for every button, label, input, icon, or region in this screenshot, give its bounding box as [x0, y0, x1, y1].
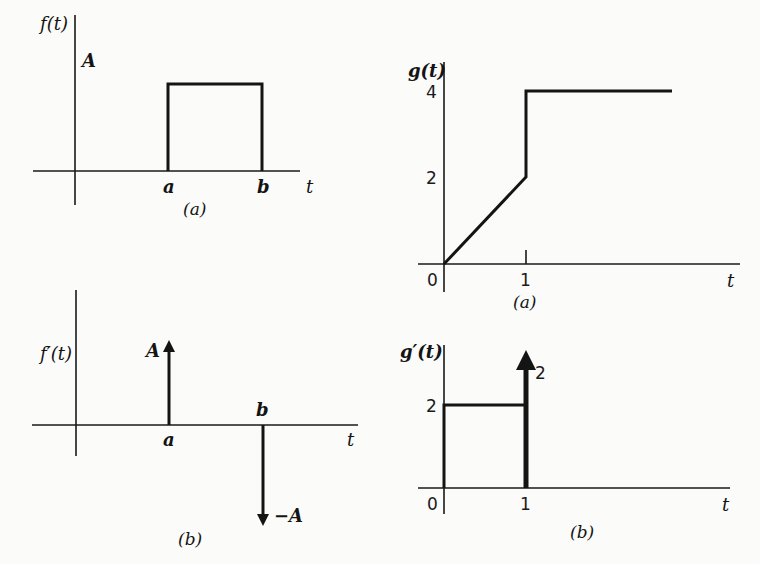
g-origin-label: 0 — [427, 270, 438, 290]
fprime-impulse-up-label: A — [144, 340, 160, 361]
f-pulse-curve — [168, 84, 262, 171]
g-ytick-4: 4 — [426, 82, 437, 102]
g-xlabel: t — [727, 270, 735, 291]
fprime-impulse-down-label: −A — [274, 505, 303, 526]
gprime-xlabel: t — [722, 494, 730, 515]
fprime-b-label: b — [256, 399, 269, 420]
gprime-origin-label: 0 — [427, 494, 438, 514]
f-a-label: a — [163, 176, 175, 197]
fprime-xlabel: t — [347, 429, 355, 450]
gprime-level-curve — [444, 405, 526, 488]
f-amplitude-label: A — [80, 50, 96, 71]
fprime-ylabel: f′(t) — [38, 343, 72, 364]
gprime-xtick-1: 1 — [520, 494, 531, 514]
gprime-caption: (b) — [570, 522, 594, 542]
gprime-ytick-2: 2 — [426, 396, 437, 416]
fprime-caption: (b) — [178, 529, 202, 549]
panel-g-prime: g′(t) 2 2 0 1 t (b) — [400, 341, 730, 542]
panel-f-prime: f′(t) A a b t −A (b) — [32, 290, 358, 549]
panel-f-of-t: f(t) A a b t (a) — [33, 13, 314, 219]
panel-g-of-t: g(t) 4 2 0 1 t (a) — [408, 60, 740, 312]
f-caption: (a) — [183, 199, 206, 219]
f-ylabel: f(t) — [38, 13, 68, 34]
gprime-ylabel: g′(t) — [400, 341, 443, 362]
g-caption: (a) — [513, 292, 536, 312]
f-xlabel: t — [306, 176, 314, 197]
g-xtick-1: 1 — [520, 270, 531, 290]
figure-canvas: f(t) A a b t (a) f′(t) A a b t −A (b) g(… — [0, 0, 760, 564]
fprime-a-label: a — [163, 429, 175, 450]
g-ytick-2: 2 — [426, 168, 437, 188]
g-curve — [444, 91, 672, 264]
g-ylabel: g(t) — [408, 60, 446, 81]
figure-svg: f(t) A a b t (a) f′(t) A a b t −A (b) g(… — [0, 0, 760, 564]
gprime-impulse-label: 2 — [535, 363, 546, 383]
f-b-label: b — [257, 176, 270, 197]
